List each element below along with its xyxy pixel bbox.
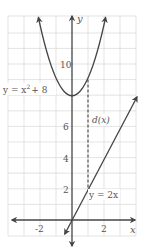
x-tick-2: 2 [101, 224, 107, 234]
y-axis-label: y [76, 13, 83, 24]
dx-label: d(x) [92, 115, 110, 125]
y-tick-4: 4 [63, 154, 69, 164]
y-tick-2: 2 [63, 185, 69, 195]
y-tick-6: 6 [63, 122, 69, 132]
y-tick-10: 10 [60, 60, 72, 70]
parabola-label: y = x2+ 8 [2, 83, 48, 95]
line-label: y = 2x [88, 190, 118, 200]
chart: 10 6 4 2 -2 2 x y y = x2+ 8 d(x) y = 2x [0, 0, 145, 250]
x-axis-label: x [130, 224, 136, 235]
x-tick-neg2: -2 [35, 224, 44, 234]
